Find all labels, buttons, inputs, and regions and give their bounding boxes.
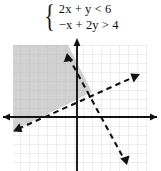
inequality-1: 2x + y < 6 xyxy=(59,2,119,17)
inequality-system-figure: { 2x + y < 6 −x + 2y > 4 xyxy=(0,0,161,171)
system-brace: { xyxy=(45,1,56,31)
inequalities-list: 2x + y < 6 −x + 2y > 4 xyxy=(59,1,119,33)
coordinate-graph xyxy=(0,30,161,171)
